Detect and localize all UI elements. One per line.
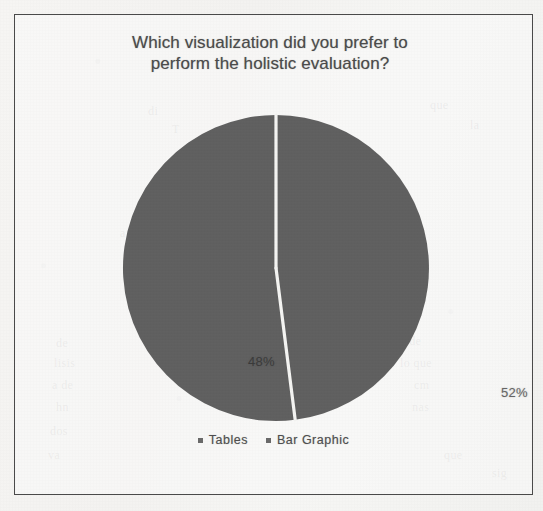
pie-value-label-bar-graphic: 52% (501, 385, 528, 400)
pie-chart: 48% 52% (120, 112, 432, 424)
legend-item-tables[interactable]: Tables (198, 433, 248, 447)
pie-chart-svg (120, 112, 432, 424)
legend-swatch-icon-bar-graphic (266, 438, 271, 443)
legend-swatch-icon-tables (198, 438, 203, 443)
pie-value-label-tables: 48% (248, 354, 275, 369)
legend-item-bar-graphic[interactable]: Bar Graphic (266, 433, 349, 447)
pie-slice-bar-graphic[interactable] (123, 115, 295, 421)
chart-title-line-2: perform the holistic evaluation? (60, 53, 480, 74)
legend-label-bar-graphic: Bar Graphic (277, 433, 349, 447)
legend-label-tables: Tables (209, 433, 248, 447)
chart-title: Which visualization did you prefer to pe… (60, 32, 480, 74)
chart-title-line-1: Which visualization did you prefer to (60, 32, 480, 53)
chart-legend: Tables Bar Graphic (14, 433, 533, 447)
figure-screenshot: diTquelaadelisisa dehndosvat delo quecmn… (0, 0, 543, 511)
pie-slice-tables[interactable] (276, 115, 429, 420)
